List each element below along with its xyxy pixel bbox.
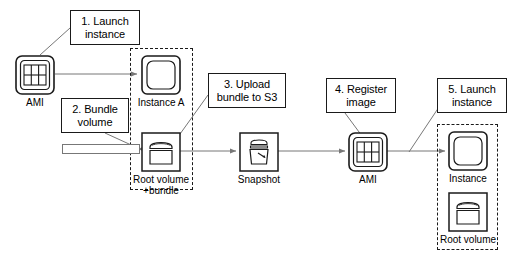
callout-step-5-line2: instance xyxy=(448,96,495,109)
node-label-snapshot: Snapshot xyxy=(226,174,292,185)
callout-step-2-line2: volume xyxy=(72,116,118,129)
node-instance-a[interactable] xyxy=(141,55,181,95)
callout-step-3[interactable]: 3. Upload bundle to S3 xyxy=(208,73,286,108)
ami-grid-icon xyxy=(348,132,388,172)
node-ami-registered[interactable] xyxy=(348,132,388,172)
callout-step-4-line2: image xyxy=(335,96,387,109)
callout-step-1-line1: 1. Launch xyxy=(81,15,128,28)
volume-drum-icon xyxy=(141,132,181,172)
callout-step-3-line1: 3. Upload xyxy=(217,78,278,91)
node-label-root-volume-bundle-line2: +bundle xyxy=(128,185,194,196)
callout-step-2[interactable]: 2. Bundle volume xyxy=(61,98,129,133)
instance-rounded-square-icon xyxy=(448,131,488,171)
node-label-root-volume-new: Root volume xyxy=(432,234,504,245)
callout-step-3-line2: bundle to S3 xyxy=(217,91,278,104)
volume-drum-icon xyxy=(448,192,488,232)
callout-step-1[interactable]: 1. Launch instance xyxy=(70,10,140,45)
node-label-instance-a: Instance A xyxy=(131,97,191,108)
node-label-root-volume-bundle-line1: Root volume xyxy=(128,174,194,185)
node-instance-new[interactable] xyxy=(448,131,488,171)
callout-step-4-line1: 4. Register xyxy=(335,83,387,96)
node-label-ami-source: AMI xyxy=(5,97,65,108)
leader-line-step5 xyxy=(409,107,439,152)
bundle-volume-bar xyxy=(62,144,140,154)
node-ami-source[interactable] xyxy=(15,55,55,95)
diagram-canvas: AMI Instance A Root volume +bundle Snaps… xyxy=(0,0,525,259)
node-root-volume-bundle[interactable] xyxy=(141,132,181,172)
callout-step-4[interactable]: 4. Register image xyxy=(326,78,396,113)
callout-step-1-line2: instance xyxy=(81,28,128,41)
callout-step-5-line1: 5. Launch xyxy=(448,83,495,96)
node-snapshot[interactable] xyxy=(239,132,279,172)
snapshot-bucket-icon xyxy=(239,132,279,172)
callout-step-2-line1: 2. Bundle xyxy=(72,103,118,116)
node-label-instance-new: Instance xyxy=(438,173,498,184)
node-label-ami-registered: AMI xyxy=(338,174,398,185)
node-root-volume-new[interactable] xyxy=(448,192,488,232)
callout-step-5[interactable]: 5. Launch instance xyxy=(437,78,507,113)
ami-grid-icon xyxy=(15,55,55,95)
leader-line-step1 xyxy=(40,28,70,55)
instance-rounded-square-icon xyxy=(141,55,181,95)
